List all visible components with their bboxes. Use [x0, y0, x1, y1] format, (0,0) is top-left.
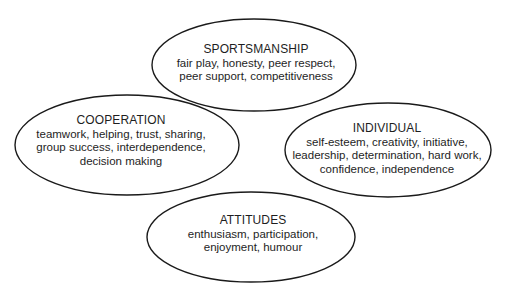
cooperation-line-2: group success, interdependence,: [36, 141, 205, 155]
sportsmanship-line-2: peer support, competitiveness: [177, 70, 336, 84]
individual-title: INDIVIDUAL: [292, 122, 481, 136]
sportsmanship-line-1: fair play, honesty, peer respect,: [177, 56, 336, 70]
individual-line-1: self-esteem, creativity, initiative,: [292, 136, 481, 150]
individual-line-3: confidence, independence: [292, 163, 481, 177]
individual-node: INDIVIDUAL self-esteem, creativity, init…: [292, 122, 481, 176]
cooperation-title: COOPERATION: [36, 114, 205, 128]
attitudes-line-1: enthusiasm, participation,: [188, 227, 318, 241]
individual-line-2: leadership, determination, hard work,: [292, 149, 481, 163]
sportsmanship-title: SPORTSMANSHIP: [177, 43, 336, 57]
cooperation-line-3: decision making: [36, 155, 205, 169]
attitudes-node: ATTITUDES enthusiasm, participation, enj…: [188, 214, 318, 255]
attitudes-title: ATTITUDES: [188, 214, 318, 228]
cooperation-line-1: teamwork, helping, trust, sharing,: [36, 128, 205, 142]
sportsmanship-node: SPORTSMANSHIP fair play, honesty, peer r…: [177, 43, 336, 84]
attitudes-line-2: enjoyment, humour: [188, 241, 318, 255]
cooperation-node: COOPERATION teamwork, helping, trust, sh…: [36, 114, 205, 168]
